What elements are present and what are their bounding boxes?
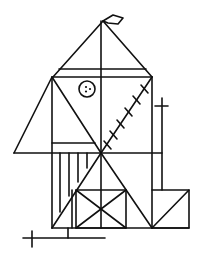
right-box <box>152 190 189 228</box>
button-icon <box>79 81 95 97</box>
left-triangle <box>14 77 162 153</box>
flag-icon <box>103 15 123 24</box>
ground <box>23 228 105 247</box>
vertical-hatch <box>60 153 87 212</box>
x-box <box>72 190 126 228</box>
inner-diagonal <box>52 77 101 153</box>
right-strip <box>155 98 168 190</box>
roof-triangle <box>53 21 152 77</box>
hatched-diagonal <box>101 77 152 153</box>
line-drawing <box>0 0 201 260</box>
drawing-svg <box>0 0 201 260</box>
